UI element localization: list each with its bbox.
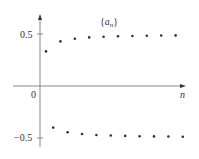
data-point <box>174 34 177 37</box>
y-tick-label-neg: −0.5 <box>14 132 32 143</box>
svg-text:{an}: {an} <box>100 16 118 29</box>
data-point <box>117 35 120 38</box>
data-point <box>102 35 105 38</box>
data-point <box>88 36 91 39</box>
data-point <box>167 135 170 138</box>
data-point <box>124 135 127 138</box>
origin-label: 0 <box>31 89 36 100</box>
data-point <box>182 136 185 139</box>
y-tick-label-pos: 0.5 <box>20 29 33 40</box>
x-axis-arrow-icon <box>180 84 186 88</box>
y-axis-arrow-icon <box>38 14 42 20</box>
data-point <box>131 35 134 38</box>
sequence-chart: 0.5 −0.5 0 n {an} <box>0 0 199 159</box>
data-point <box>160 34 163 37</box>
data-point <box>45 50 48 53</box>
chart-title: {an} <box>100 16 118 29</box>
data-point <box>138 135 141 138</box>
x-axis-label: n <box>180 89 185 100</box>
data-point <box>52 126 55 129</box>
data-point <box>146 34 149 37</box>
data-point <box>59 40 62 43</box>
data-point <box>74 37 77 40</box>
data-point <box>81 133 84 136</box>
data-point <box>153 135 156 138</box>
data-point <box>66 131 69 134</box>
title-brace-close: } <box>113 16 118 27</box>
data-point <box>95 134 98 137</box>
data-point <box>110 134 113 137</box>
